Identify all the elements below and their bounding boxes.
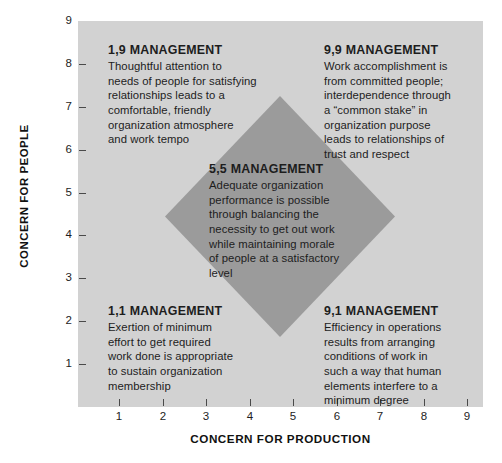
x-tick-label-7: 7 — [372, 410, 388, 422]
quadrant-1-1: 1,1 MANAGEMENT Exertion of minimum effor… — [108, 303, 283, 393]
y-tick-label-2: 2 — [56, 314, 72, 326]
quadrant-1-9-title: 1,9 MANAGEMENT — [108, 42, 293, 58]
y-tickmark-2 — [79, 321, 86, 322]
y-tick-label-8: 8 — [56, 57, 72, 69]
quadrant-1-9: 1,9 MANAGEMENT Thoughtful attention to n… — [108, 42, 293, 147]
x-tickmark-5 — [293, 399, 294, 406]
x-tick-label-4: 4 — [242, 410, 258, 422]
x-tick-label-5: 5 — [285, 410, 301, 422]
y-axis-title: CONCERN FOR PEOPLE — [18, 106, 30, 286]
quadrant-9-9: 9,9 MANAGEMENT Work accomplishment is fr… — [324, 42, 499, 162]
quadrant-9-9-body: Work accomplishment is from committed pe… — [324, 59, 499, 162]
y-tick-label-5: 5 — [56, 186, 72, 198]
x-tick-label-6: 6 — [329, 410, 345, 422]
managerial-grid-figure: 1,9 MANAGEMENT Thoughtful attention to n… — [0, 0, 502, 463]
quadrant-1-1-body: Exertion of minimum effort to get requir… — [108, 320, 283, 393]
x-tickmark-1 — [119, 399, 120, 406]
y-tickmark-7 — [79, 107, 86, 108]
y-tick-label-7: 7 — [56, 100, 72, 112]
x-tick-label-3: 3 — [198, 410, 214, 422]
x-tickmark-4 — [250, 399, 251, 406]
x-tick-label-1: 1 — [111, 410, 127, 422]
x-tick-label-8: 8 — [416, 410, 432, 422]
x-tick-label-2: 2 — [155, 410, 171, 422]
y-tickmark-8 — [79, 64, 86, 65]
x-tick-label-9: 9 — [459, 410, 475, 422]
quadrant-5-5-body: Adequate organization performance is pos… — [209, 178, 394, 281]
x-axis-title: CONCERN FOR PRODUCTION — [78, 432, 483, 445]
y-tickmark-3 — [79, 278, 86, 279]
y-tick-label-4: 4 — [56, 228, 72, 240]
y-tickmark-1 — [79, 364, 86, 365]
quadrant-1-1-title: 1,1 MANAGEMENT — [108, 303, 283, 319]
y-tick-label-3: 3 — [56, 271, 72, 283]
quadrant-9-1: 9,1 MANAGEMENT Efficiency in operations … — [324, 303, 499, 408]
y-axis-tick-labels: 9 8 7 6 5 4 3 2 1 — [56, 21, 72, 407]
y-tick-label-1: 1 — [56, 357, 72, 369]
quadrant-5-5: 5,5 MANAGEMENT Adequate organization per… — [209, 161, 394, 281]
y-tickmark-6 — [79, 150, 86, 151]
y-tickmark-5 — [79, 193, 86, 194]
x-tickmark-2 — [163, 399, 164, 406]
plot-area: 1,9 MANAGEMENT Thoughtful attention to n… — [78, 21, 483, 407]
quadrant-9-9-title: 9,9 MANAGEMENT — [324, 42, 499, 58]
quadrant-9-1-body: Efficiency in operations results from ar… — [324, 320, 499, 408]
y-tick-label-9: 9 — [56, 14, 72, 26]
quadrant-5-5-title: 5,5 MANAGEMENT — [209, 161, 394, 177]
quadrant-9-1-title: 9,1 MANAGEMENT — [324, 303, 499, 319]
y-tick-label-6: 6 — [56, 143, 72, 155]
x-axis-tick-labels: 1 2 3 4 5 6 7 8 9 — [78, 410, 483, 428]
y-tickmark-4 — [79, 235, 86, 236]
quadrant-1-9-body: Thoughtful attention to needs of people … — [108, 59, 293, 147]
x-tickmark-3 — [206, 399, 207, 406]
